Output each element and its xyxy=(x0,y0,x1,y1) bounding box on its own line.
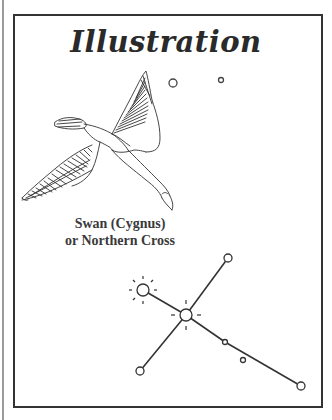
star-bottom-right-icon xyxy=(297,382,305,390)
star-icon xyxy=(169,79,177,87)
star-bottom-left-icon xyxy=(136,367,144,375)
star-deneb-icon xyxy=(137,284,149,296)
illustration-caption: Swan (Cygnus) or Northern Cross xyxy=(40,215,200,249)
swan-drawing xyxy=(22,71,173,210)
constellation-lines xyxy=(140,258,301,386)
constellation-stars xyxy=(136,254,305,390)
star-top-right-icon xyxy=(224,254,232,262)
caption-line-1: Swan (Cygnus) xyxy=(40,215,200,232)
star-sadr-icon xyxy=(180,309,192,321)
star-mid-lower-icon xyxy=(223,340,228,345)
star-off-line-icon xyxy=(241,358,246,363)
background-stars xyxy=(169,78,224,88)
star-icon xyxy=(219,78,224,83)
caption-line-2: or Northern Cross xyxy=(40,232,200,249)
illustration-canvas xyxy=(0,0,332,420)
